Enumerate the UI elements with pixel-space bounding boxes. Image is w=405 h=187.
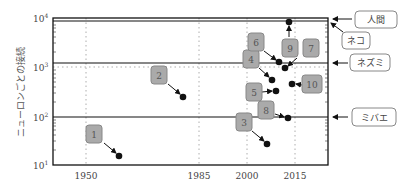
point-label-8: 8 bbox=[258, 101, 274, 119]
point-arrows bbox=[104, 26, 302, 153]
svg-text:1985: 1985 bbox=[188, 171, 211, 181]
point-label-7: 7 bbox=[303, 39, 319, 57]
chart: 104 103 102 101 1950 1985 2000 2015 ニューロ… bbox=[0, 0, 405, 187]
point-label-9: 9 bbox=[282, 39, 298, 57]
svg-text:1: 1 bbox=[91, 130, 97, 140]
svg-text:2: 2 bbox=[156, 71, 162, 81]
point-label-2: 2 bbox=[151, 66, 167, 84]
svg-text:4: 4 bbox=[248, 55, 254, 65]
svg-text:7: 7 bbox=[308, 44, 314, 54]
svg-text:6: 6 bbox=[253, 38, 259, 48]
svg-text:101: 101 bbox=[33, 159, 48, 171]
svg-text:1950: 1950 bbox=[75, 171, 98, 181]
x-tick-labels: 1950 1985 2000 2015 bbox=[75, 171, 307, 181]
svg-text:8: 8 bbox=[263, 106, 269, 116]
svg-text:2015: 2015 bbox=[284, 171, 307, 181]
svg-text:102: 102 bbox=[33, 111, 48, 123]
svg-text:104: 104 bbox=[33, 12, 48, 24]
point-label-5: 5 bbox=[246, 83, 262, 101]
point-label-1: 1 bbox=[86, 125, 102, 143]
data-points bbox=[116, 19, 296, 160]
svg-text:5: 5 bbox=[251, 88, 257, 98]
svg-text:ネコ: ネコ bbox=[347, 36, 365, 46]
point-label-6: 6 bbox=[248, 33, 264, 51]
point-label-3: 3 bbox=[236, 113, 252, 131]
point-labels: 1 2 3 4 5 6 7 8 9 10 bbox=[86, 33, 322, 143]
svg-text:9: 9 bbox=[287, 44, 293, 54]
svg-text:10: 10 bbox=[306, 80, 318, 90]
svg-text:ネズミ: ネズミ bbox=[357, 57, 384, 68]
svg-text:103: 103 bbox=[33, 61, 48, 73]
svg-text:ミバエ: ミバエ bbox=[361, 113, 388, 123]
point-label-10: 10 bbox=[302, 75, 322, 93]
y-axis-label: ニューロンごとの接続 bbox=[15, 47, 26, 137]
y-tick-labels: 104 103 102 101 bbox=[33, 12, 48, 171]
svg-text:3: 3 bbox=[241, 118, 247, 128]
svg-text:人間: 人間 bbox=[367, 15, 385, 25]
reference-callouts: 人間 ネコ ネズミ ミバエ bbox=[331, 11, 397, 126]
point-label-4: 4 bbox=[243, 50, 259, 68]
svg-text:2000: 2000 bbox=[236, 171, 259, 181]
